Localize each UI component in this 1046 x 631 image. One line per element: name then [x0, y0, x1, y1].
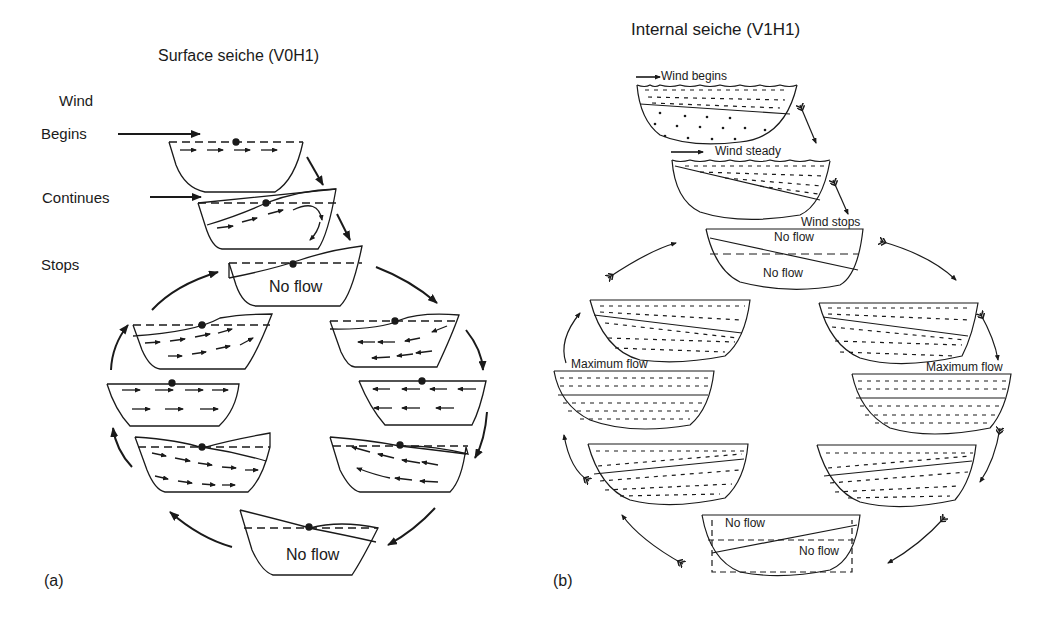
basin-b-right-middle	[852, 374, 1011, 434]
basin-left-lower	[135, 433, 270, 492]
basin-wind-steady	[672, 160, 830, 219]
basin-left-upper	[133, 314, 272, 369]
seiche-diagram	[0, 0, 1046, 631]
step-continues: Continues	[42, 189, 110, 206]
max-flow-right-label: Maximum flow	[926, 360, 1003, 374]
basin-right-upper	[330, 314, 459, 367]
no-flow-label-bottom: No flow	[286, 546, 339, 564]
no-flow-top-label: No flow	[774, 230, 814, 244]
hypolimnion-dots	[654, 112, 767, 141]
basin-b-left-middle	[554, 371, 714, 429]
wind-begins-label: Wind begins	[661, 69, 727, 83]
basin-b-left-lower	[588, 444, 748, 505]
basin-right-middle	[359, 378, 486, 425]
wind-label: Wind	[59, 92, 93, 109]
no-flow-last-bottom-label: No flow	[799, 544, 839, 558]
basin-begins	[169, 139, 303, 192]
no-flow-last-top-label: No flow	[725, 516, 765, 530]
panel-a-drawing	[107, 134, 487, 575]
no-flow-bottom-label: No flow	[763, 266, 803, 280]
no-flow-label-stops: No flow	[269, 278, 322, 296]
panel-a-title: Surface seiche (V0H1)	[158, 47, 319, 65]
basin-b-right-upper	[819, 303, 978, 364]
wind-steady-label: Wind steady	[715, 144, 781, 158]
basin-continues	[198, 189, 336, 249]
max-flow-left-label: Maximum flow	[571, 357, 648, 371]
basin-b-left-upper	[590, 300, 750, 362]
wind-stops-label: Wind stops	[801, 215, 860, 229]
panel-b-drawing	[554, 77, 1011, 576]
step-begins: Begins	[41, 125, 87, 142]
panel-b-title: Internal seiche (V1H1)	[631, 20, 800, 40]
panel-b-label: (b)	[553, 572, 573, 590]
basin-bottom	[240, 510, 378, 575]
basin-left-middle	[107, 380, 239, 426]
basin-stops	[229, 246, 362, 306]
basin-b-right-lower	[817, 445, 976, 507]
basin-wind-begins	[637, 85, 797, 144]
step-stops: Stops	[41, 256, 79, 273]
basin-right-lower	[330, 437, 468, 492]
panel-a-label: (a)	[44, 572, 64, 590]
